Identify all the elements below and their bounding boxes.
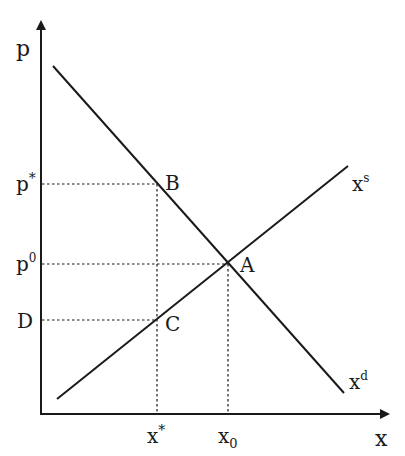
y-axis-label: p	[16, 36, 30, 61]
d-label: D	[17, 309, 33, 333]
demand-curve	[53, 66, 344, 393]
p-star-label: p*	[16, 170, 36, 196]
demand-curve-label: xd	[349, 369, 368, 394]
point-a-label: A	[239, 253, 255, 277]
supply-demand-diagram: p x xs xd B A C p* p0 D x* x0	[0, 0, 405, 456]
supply-curve	[57, 166, 348, 399]
supply-curve-label: xs	[352, 171, 369, 196]
point-b-label: B	[165, 171, 180, 195]
x-star-label: x*	[147, 422, 165, 448]
p-zero-label: p0	[16, 251, 36, 276]
x-axis-label: x	[375, 426, 388, 451]
point-c-label: C	[165, 312, 180, 336]
x-zero-label: x0	[218, 424, 238, 451]
